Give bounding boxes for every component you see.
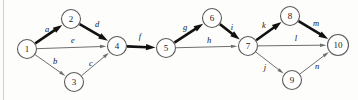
edge-e [37,45,107,49]
edge-line-j [256,52,279,70]
node-circle-4 [108,37,127,56]
diagram-canvas: 12345678910 abcdefghijklmn [0,0,358,100]
edge-line-m [299,21,321,35]
node-circle-2 [62,10,81,29]
edge-a [35,25,62,43]
arrowhead-l [320,44,327,47]
node-4[interactable]: 4 [108,37,127,56]
node-7[interactable]: 7 [239,37,258,56]
edge-line-c [82,56,105,75]
node-circle-9 [283,71,302,90]
edge-line-g [174,28,196,42]
edge-label-j: j [263,62,267,72]
edge-label-b: b [53,56,57,66]
node-1[interactable]: 1 [18,40,37,59]
edge-label-m: m [313,18,319,28]
node-circle-1 [18,40,37,59]
nodes-layer: 12345678910 [18,7,349,92]
node-10[interactable]: 10 [328,35,349,56]
edge-h [176,45,238,48]
edge-line-f [127,46,147,47]
node-circle-5 [157,39,176,58]
node-circle-10 [328,35,349,56]
node-circle-6 [203,9,222,28]
edge-line-e [37,47,101,49]
edge-line-a [35,30,55,44]
edge-line-b [35,55,61,73]
edge-label-h: h [207,35,211,45]
edge-f [127,44,156,50]
edge-label-d: d [95,19,100,29]
edge-label-g: g [183,22,187,32]
node-circle-3 [65,73,84,92]
arrowhead-f [146,44,156,50]
node-6[interactable]: 6 [203,9,222,28]
edge-label-l: l [295,33,298,43]
edge-line-k [256,27,275,40]
edge-b [35,55,65,76]
edge-d [80,24,108,41]
activity-network-graph: 12345678910 abcdefghijklmn [0,0,358,100]
edge-n [300,52,329,74]
node-3[interactable]: 3 [65,73,84,92]
edge-l [258,44,327,47]
node-2[interactable]: 2 [62,10,81,29]
edge-line-h [176,46,232,47]
edge-label-f: f [139,31,143,41]
edge-line-n [300,55,324,74]
edge-label-i: i [231,22,234,32]
edge-c [82,53,109,76]
node-circle-8 [281,7,300,26]
edge-m [299,21,329,39]
edge-line-i [220,24,233,34]
node-9[interactable]: 9 [283,71,302,90]
edge-label-e: e [71,35,75,45]
edge-k [256,22,281,40]
node-circle-7 [239,37,258,56]
edge-g [174,24,203,43]
node-8[interactable]: 8 [281,7,300,26]
arrowhead-e [100,45,107,48]
edge-line-l [258,45,321,46]
edge-i [220,24,240,39]
arrowhead-h [231,45,238,48]
edge-j [256,52,284,73]
edge-line-d [80,24,101,36]
edge-label-a: a [45,24,49,34]
edges-layer [35,21,329,76]
node-5[interactable]: 5 [157,39,176,58]
edge-label-k: k [262,20,266,30]
